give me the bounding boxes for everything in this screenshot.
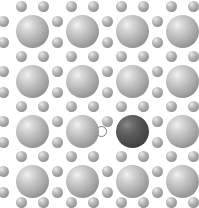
dopant-atom [116, 115, 149, 148]
interstitial-atom [38, 151, 49, 162]
interstitial-atom [188, 101, 199, 112]
interstitial-atom [0, 37, 9, 48]
host-atom [66, 165, 99, 198]
interstitial-atom [102, 87, 113, 98]
interstitial-atom [66, 197, 77, 208]
interstitial-atom [16, 101, 27, 112]
interstitial-atom [102, 66, 113, 77]
host-atom [16, 115, 49, 148]
interstitial-atom [16, 51, 27, 62]
interstitial-atom [38, 197, 49, 208]
interstitial-atom [152, 187, 163, 198]
host-atom [16, 165, 49, 198]
interstitial-atom [152, 116, 163, 127]
interstitial-atom [138, 151, 149, 162]
interstitial-atom [138, 197, 149, 208]
interstitial-atom [138, 101, 149, 112]
interstitial-atom [16, 1, 27, 12]
interstitial-atom [88, 1, 99, 12]
host-atom [16, 65, 49, 98]
interstitial-atom [152, 137, 163, 148]
interstitial-atom [116, 101, 127, 112]
interstitial-atom [88, 151, 99, 162]
interstitial-atom [0, 66, 9, 77]
interstitial-atom [38, 1, 49, 12]
interstitial-atom [66, 1, 77, 12]
interstitial-atom [88, 51, 99, 62]
interstitial-atom [88, 197, 99, 208]
interstitial-atom [116, 151, 127, 162]
interstitial-atom [116, 197, 127, 208]
host-atom [16, 15, 49, 48]
interstitial-atom [166, 151, 177, 162]
interstitial-atom [166, 101, 177, 112]
host-atom [166, 65, 199, 98]
interstitial-atom [138, 1, 149, 12]
crystal-lattice-figure [0, 0, 199, 208]
interstitial-atom [152, 66, 163, 77]
interstitial-atom [38, 51, 49, 62]
interstitial-atom [66, 151, 77, 162]
interstitial-atom [0, 16, 9, 27]
interstitial-atom [188, 197, 199, 208]
interstitial-atom [188, 151, 199, 162]
interstitial-atom [152, 166, 163, 177]
interstitial-atom [52, 116, 63, 127]
host-atom [116, 15, 149, 48]
interstitial-atom [0, 87, 9, 98]
interstitial-atom [188, 51, 199, 62]
interstitial-atom [102, 16, 113, 27]
interstitial-atom [138, 51, 149, 62]
interstitial-atom [102, 116, 113, 127]
interstitial-atom [52, 166, 63, 177]
interstitial-atom [166, 197, 177, 208]
interstitial-atom [102, 37, 113, 48]
interstitial-atom [188, 1, 199, 12]
interstitial-atom [0, 116, 9, 127]
host-atom [66, 115, 99, 148]
interstitial-atom [102, 187, 113, 198]
host-atom [66, 65, 99, 98]
interstitial-atom [0, 137, 9, 148]
interstitial-atom [16, 151, 27, 162]
interstitial-atom [66, 51, 77, 62]
interstitial-atom [52, 187, 63, 198]
interstitial-atom [52, 87, 63, 98]
interstitial-atom [116, 1, 127, 12]
interstitial-atom [0, 187, 9, 198]
interstitial-atom [166, 51, 177, 62]
host-atom [66, 15, 99, 48]
host-atom [166, 115, 199, 148]
host-atom [166, 15, 199, 48]
interstitial-atom [52, 37, 63, 48]
interstitial-atom [66, 101, 77, 112]
host-atom [166, 165, 199, 198]
interstitial-atom [52, 137, 63, 148]
interstitial-atom [0, 166, 9, 177]
host-atom [116, 165, 149, 198]
interstitial-atom [38, 101, 49, 112]
interstitial-atom [88, 101, 99, 112]
interstitial-atom [52, 16, 63, 27]
interstitial-atom [152, 16, 163, 27]
interstitial-atom [152, 87, 163, 98]
interstitial-atom [102, 166, 113, 177]
interstitial-atom [152, 37, 163, 48]
interstitial-atom [116, 51, 127, 62]
host-atom [116, 65, 149, 98]
interstitial-atom [52, 66, 63, 77]
interstitial-atom [16, 197, 27, 208]
interstitial-atom [166, 1, 177, 12]
